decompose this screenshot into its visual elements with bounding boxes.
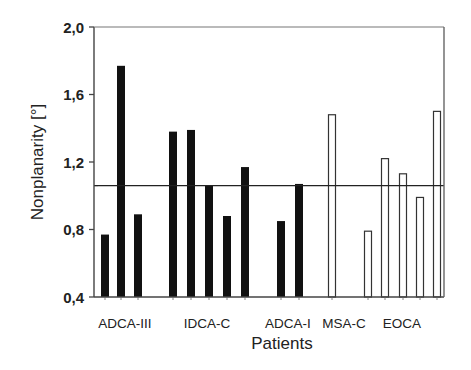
bar-idca-c bbox=[223, 216, 231, 297]
y-tick-label: 0,8 bbox=[63, 221, 84, 238]
bar-idca-c bbox=[169, 132, 177, 297]
bar-adca-i bbox=[295, 184, 303, 297]
bar-msa-c bbox=[329, 115, 336, 297]
y-tick-label: 2,0 bbox=[63, 19, 84, 36]
x-axis-title: Patients bbox=[251, 334, 312, 353]
bar-eoca bbox=[365, 231, 372, 297]
category-label: ADCA-I bbox=[265, 316, 311, 331]
bar-eoca bbox=[417, 197, 424, 297]
bar-chart: Nonplanarity [°] 0,40,81,21,62,0 ADCA-II… bbox=[0, 0, 471, 370]
plot-frame bbox=[94, 27, 444, 297]
category-label: EOCA bbox=[383, 316, 421, 331]
y-tick-label: 0,4 bbox=[63, 289, 85, 306]
category-label: IDCA-C bbox=[184, 316, 231, 331]
category-label: ADCA-III bbox=[98, 316, 151, 331]
bar-eoca bbox=[382, 159, 389, 297]
bars bbox=[101, 66, 441, 297]
category-label: MSA-C bbox=[322, 316, 366, 331]
bar-eoca bbox=[434, 111, 441, 297]
bar-adca-iii bbox=[134, 214, 142, 297]
category-labels: ADCA-IIIIDCA-CADCA-IMSA-CEOCA bbox=[98, 316, 421, 331]
bar-idca-c bbox=[241, 167, 249, 297]
bar-eoca bbox=[400, 174, 407, 297]
y-axis-ticks: 0,40,81,21,62,0 bbox=[63, 19, 98, 306]
bar-idca-c bbox=[187, 130, 195, 297]
bar-adca-iii bbox=[101, 235, 109, 297]
bar-adca-i bbox=[277, 221, 285, 297]
bar-idca-c bbox=[205, 186, 213, 297]
y-axis-title: Nonplanarity [°] bbox=[28, 104, 47, 220]
bar-adca-iii bbox=[117, 66, 125, 297]
y-tick-label: 1,2 bbox=[63, 154, 84, 171]
y-tick-label: 1,6 bbox=[63, 86, 84, 103]
